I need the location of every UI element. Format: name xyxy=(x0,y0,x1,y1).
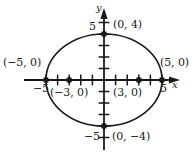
x-axis-name-label: x xyxy=(172,80,178,90)
ellipse-graph-figure: y x 5 −5 −5 5 (0, 4) (0, −4) (−5, 0) (5,… xyxy=(0,0,195,155)
x-tick-label-neg5: −5 xyxy=(33,83,49,94)
y-tick-label-5: 5 xyxy=(89,21,96,32)
y-axis-name-label: y xyxy=(96,3,102,13)
point-co-vertex-bottom xyxy=(101,123,107,129)
point-co-vertex-top xyxy=(101,31,107,37)
x-tick-label-5: 5 xyxy=(160,83,167,94)
point-label-5-0: (5, 0) xyxy=(160,57,189,68)
point-label-0-4: (0, 4) xyxy=(113,19,142,30)
point-label-neg3-0: (−3, 0) xyxy=(50,87,88,98)
y-tick-label-neg5: −5 xyxy=(84,131,100,142)
point-label-neg5-0: (−5, 0) xyxy=(3,57,41,68)
point-label-3-0: (3, 0) xyxy=(113,87,142,98)
point-label-0-neg4: (0, −4) xyxy=(112,131,150,142)
point-focus-left xyxy=(66,77,72,83)
point-focus-right xyxy=(136,77,142,83)
